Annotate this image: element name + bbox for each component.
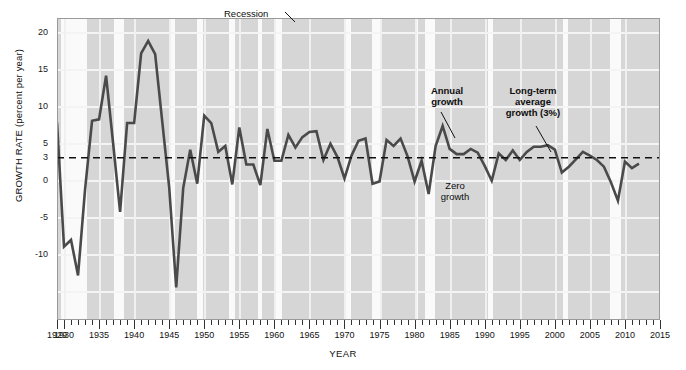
x-axis-tick-label: 1950 [194, 330, 214, 340]
x-axis-minor-tick [197, 320, 198, 325]
x-axis-minor-tick [190, 320, 191, 325]
x-axis-minor-tick [225, 320, 226, 325]
x-axis-tick-label: 1970 [334, 330, 354, 340]
x-axis-tick-label: 1990 [475, 330, 495, 340]
x-axis-tick-label: 2005 [580, 330, 600, 340]
y-axis-tick-label: 10 [22, 102, 48, 111]
x-axis-minor-tick [506, 320, 507, 325]
x-axis-minor-tick [260, 320, 261, 325]
x-axis-major-tick [450, 320, 451, 329]
x-axis-major-tick [590, 320, 591, 329]
annotation-zero-growth-line2: growth [432, 191, 478, 202]
x-axis-minor-tick [464, 320, 465, 325]
plot-area [57, 18, 660, 320]
x-axis-minor-tick [92, 320, 93, 325]
y-axis-tick-label: 0 [22, 176, 48, 185]
annotation-recession: Recession [224, 8, 268, 19]
x-axis-minor-tick [330, 320, 331, 325]
y-axis-title: GROWTH RATE (percent per year) [13, 16, 24, 236]
annotation-annual-growth-line2: growth [419, 96, 475, 107]
x-axis-major-tick [64, 320, 65, 329]
x-axis-minor-tick [471, 320, 472, 325]
x-axis-minor-tick [632, 320, 633, 325]
x-axis-major-tick [239, 320, 240, 329]
y-axis-tick-label: 20 [22, 28, 48, 37]
x-axis-major-tick [415, 320, 416, 329]
x-axis-minor-tick [576, 320, 577, 325]
x-axis-major-tick [625, 320, 626, 329]
x-axis-minor-tick [183, 320, 184, 325]
x-axis-minor-tick [408, 320, 409, 325]
annotation-long-term-average: Long-term average growth (3%) [496, 85, 570, 118]
x-axis-minor-tick [492, 320, 493, 325]
x-axis-major-tick [485, 320, 486, 329]
x-axis-minor-tick [316, 320, 317, 325]
x-axis-minor-tick [302, 320, 303, 325]
x-axis-minor-tick [246, 320, 247, 325]
x-axis-minor-tick [232, 320, 233, 325]
x-axis-minor-tick [120, 320, 121, 325]
x-axis-minor-tick [457, 320, 458, 325]
x-axis-minor-tick [267, 320, 268, 325]
x-axis-major-tick [380, 320, 381, 329]
x-axis-minor-tick [569, 320, 570, 325]
x-axis-tick-label: 1995 [510, 330, 530, 340]
x-axis-major-tick [134, 320, 135, 329]
x-axis-major-tick [660, 320, 661, 329]
x-axis-title: YEAR [0, 348, 686, 359]
data-series-layer [57, 18, 660, 320]
x-axis-minor-tick [597, 320, 598, 325]
x-axis-tick-label: 1980 [405, 330, 425, 340]
x-axis-major-tick [57, 320, 58, 329]
x-axis-minor-tick [401, 320, 402, 325]
x-axis-minor-tick [583, 320, 584, 325]
x-axis-tick-label: 2000 [545, 330, 565, 340]
x-axis-major-tick [520, 320, 521, 329]
y-axis-tick-label: 5 [22, 139, 48, 148]
x-axis-minor-tick [443, 320, 444, 325]
x-axis-minor-tick [295, 320, 296, 325]
x-axis-tick-label: 1940 [124, 330, 144, 340]
x-axis-major-tick [169, 320, 170, 329]
x-axis-minor-tick [387, 320, 388, 325]
x-axis-major-tick [344, 320, 345, 329]
x-axis-minor-tick [653, 320, 654, 325]
x-axis-minor-tick [373, 320, 374, 325]
x-axis-minor-tick [646, 320, 647, 325]
x-axis-minor-tick [176, 320, 177, 325]
x-axis-minor-tick [211, 320, 212, 325]
x-axis-minor-tick [618, 320, 619, 325]
x-axis-minor-tick [127, 320, 128, 325]
x-axis-major-tick [309, 320, 310, 329]
y-axis-tick-label: 3 [22, 153, 48, 162]
y-axis-tick-label: 15 [22, 65, 48, 74]
x-axis-minor-tick [604, 320, 605, 325]
x-axis-major-tick [204, 320, 205, 329]
x-axis-minor-tick [253, 320, 254, 325]
x-axis-minor-tick [562, 320, 563, 325]
x-axis-minor-tick [106, 320, 107, 325]
x-axis-minor-tick [323, 320, 324, 325]
x-axis-tick-label: 1975 [370, 330, 390, 340]
annotation-long-term-line1: Long-term [496, 85, 570, 96]
x-axis-minor-tick [162, 320, 163, 325]
x-axis-minor-tick [113, 320, 114, 325]
x-axis-minor-tick [71, 320, 72, 325]
x-axis-minor-tick [351, 320, 352, 325]
annotation-long-term-line2: average [496, 96, 570, 107]
x-axis-minor-tick [499, 320, 500, 325]
x-axis-minor-tick [218, 320, 219, 325]
chart-figure: 201510530-5-10 GROWTH RATE (percent per … [0, 0, 686, 370]
x-axis-minor-tick [429, 320, 430, 325]
x-axis-tick-label: 1965 [299, 330, 319, 340]
x-axis-tick-label: 1955 [229, 330, 249, 340]
x-axis-minor-tick [611, 320, 612, 325]
x-axis-minor-tick [337, 320, 338, 325]
y-axis-tick-label: -5 [22, 213, 48, 222]
x-axis-tick-label: 2015 [650, 330, 670, 340]
x-axis-minor-tick [436, 320, 437, 325]
annual-growth-line [57, 41, 639, 287]
x-axis-minor-tick [359, 320, 360, 325]
x-axis-minor-tick [513, 320, 514, 325]
x-axis-minor-tick [141, 320, 142, 325]
